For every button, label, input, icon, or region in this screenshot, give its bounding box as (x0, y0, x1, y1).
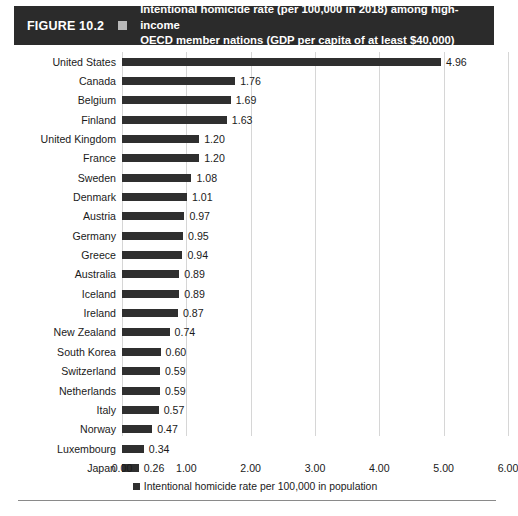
category-label: Finland (81, 114, 116, 126)
bar-row: Iceland0.89 (122, 284, 508, 303)
bar-row: United Kingdom1.20 (122, 129, 508, 148)
bar-row: Ireland0.87 (122, 303, 508, 322)
bar-value-label: 0.97 (189, 210, 210, 222)
legend-swatch-icon (133, 483, 140, 490)
bar (122, 212, 184, 220)
category-label: Italy (97, 404, 116, 416)
gridline-6.00 (508, 52, 509, 436)
figure-title: Intentional homicide rate (per 100,000 i… (140, 2, 486, 49)
category-label: Switzerland (61, 365, 116, 377)
bar (122, 58, 441, 66)
bar-row: Norway0.47 (122, 420, 508, 439)
bar-row: Canada1.76 (122, 71, 508, 90)
bar-row: Luxembourg0.34 (122, 439, 508, 458)
category-label: Ireland (84, 307, 116, 319)
bar-row: Germany0.95 (122, 226, 508, 245)
bar-row: Belgium1.69 (122, 91, 508, 110)
bar (122, 425, 152, 433)
category-label: Canada (79, 75, 116, 87)
x-axis: 0.001.002.003.004.005.006.00 (122, 462, 508, 478)
x-tick-label: 1.00 (176, 462, 197, 474)
bar (122, 290, 179, 298)
bar (122, 174, 191, 182)
bar-value-label: 1.63 (232, 114, 253, 126)
bar (122, 193, 187, 201)
bar-row: Italy0.57 (122, 400, 508, 419)
category-label: France (83, 152, 116, 164)
bar (122, 348, 161, 356)
bar (122, 445, 144, 453)
bar-chart: United States4.96Canada1.76Belgium1.69Fi… (0, 50, 510, 470)
bar (122, 232, 183, 240)
category-label: United Kingdom (41, 133, 116, 145)
bar-value-label: 0.95 (188, 230, 209, 242)
x-tick-label: 4.00 (369, 462, 390, 474)
bar-row: New Zealand0.74 (122, 323, 508, 342)
bar-value-label: 1.76 (240, 75, 261, 87)
bar-value-label: 0.59 (165, 365, 186, 377)
bar-value-label: 1.69 (236, 94, 257, 106)
legend-label: Intentional homicide rate per 100,000 in… (144, 481, 377, 492)
bar-value-label: 1.20 (204, 152, 225, 164)
bar-value-label: 0.89 (184, 288, 205, 300)
plot-area: United States4.96Canada1.76Belgium1.69Fi… (122, 52, 508, 454)
category-label: Netherlands (59, 385, 116, 397)
bar-row: Switzerland0.59 (122, 362, 508, 381)
category-label: Germany (72, 230, 116, 242)
bar-row: Sweden1.08 (122, 168, 508, 187)
x-tick-label: 6.00 (498, 462, 518, 474)
bar (122, 309, 178, 317)
bar (122, 77, 235, 85)
chart-legend: Intentional homicide rate per 100,000 in… (0, 481, 510, 492)
bar-row: United States4.96 (122, 52, 508, 71)
figure-title-line1: Intentional homicide rate (per 100,000 i… (140, 3, 458, 31)
category-label: Austria (83, 210, 116, 222)
bar-value-label: 4.96 (446, 56, 467, 68)
bar (122, 116, 227, 124)
category-label: United States (52, 56, 116, 68)
x-tick-label: 2.00 (240, 462, 261, 474)
category-label: Sweden (78, 172, 116, 184)
bar (122, 154, 199, 162)
bar-value-label: 1.08 (196, 172, 217, 184)
bar (122, 387, 160, 395)
bar-row: Austria0.97 (122, 207, 508, 226)
bottom-divider (18, 500, 496, 501)
bar-rows: United States4.96Canada1.76Belgium1.69Fi… (122, 52, 508, 478)
bar-value-label: 0.94 (187, 249, 208, 261)
figure-title-line2: OECD member nations (GDP per capita of a… (140, 34, 454, 46)
figure-banner: FIGURE 10.2 Intentional homicide rate (p… (14, 6, 494, 45)
x-tick-label: 3.00 (305, 462, 326, 474)
bar-value-label: 1.20 (204, 133, 225, 145)
bar-row: Australia0.89 (122, 265, 508, 284)
bar-row: Denmark1.01 (122, 187, 508, 206)
bar-value-label: 0.74 (175, 326, 196, 338)
bar-row: France1.20 (122, 149, 508, 168)
category-label: Greece (81, 249, 116, 261)
bar-row: Greece0.94 (122, 245, 508, 264)
bar-value-label: 0.34 (149, 443, 170, 455)
bar-value-label: 0.87 (183, 307, 204, 319)
bar (122, 328, 170, 336)
bar (122, 96, 231, 104)
bar (122, 367, 160, 375)
bar (122, 270, 179, 278)
category-label: Luxembourg (57, 443, 116, 455)
figure-number: FIGURE 10.2 (27, 19, 104, 33)
category-label: New Zealand (54, 326, 116, 338)
category-label: Norway (80, 423, 116, 435)
bar-value-label: 1.01 (192, 191, 213, 203)
category-label: Denmark (73, 191, 116, 203)
bar-row: Finland1.63 (122, 110, 508, 129)
bar-value-label: 0.60 (166, 346, 187, 358)
category-label: South Korea (57, 346, 116, 358)
category-label: Australia (75, 268, 116, 280)
x-tick-label: 0.00 (112, 462, 133, 474)
bar-value-label: 0.89 (184, 268, 205, 280)
bar-value-label: 0.57 (164, 404, 185, 416)
bar (122, 406, 159, 414)
bar-row: South Korea0.60 (122, 342, 508, 361)
category-label: Iceland (82, 288, 116, 300)
bar-value-label: 0.47 (157, 423, 178, 435)
